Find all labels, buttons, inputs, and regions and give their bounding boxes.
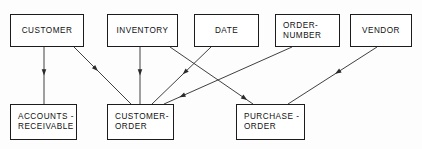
node-label-order-number: ORDER- NUMBER [276, 21, 321, 41]
arrowhead-icon [138, 69, 143, 75]
arrowhead-icon [241, 95, 247, 100]
edge-line [74, 47, 131, 104]
arrowhead-icon [179, 93, 186, 98]
edge-line [288, 47, 377, 104]
edge-customer-to-customer-order [74, 47, 131, 104]
node-label-customer: CUSTOMER [22, 26, 73, 36]
node-customer[interactable]: CUSTOMER [10, 14, 84, 47]
node-customer-order[interactable]: CUSTOMER- ORDER [107, 104, 174, 140]
node-label-inventory: INVENTORY [117, 26, 169, 36]
node-label-vendor: VENDOR [362, 26, 400, 36]
node-inventory[interactable]: INVENTORY [107, 14, 178, 47]
node-label-purchase-order: PURCHASE - ORDER [237, 112, 300, 132]
edge-vendor-to-purchase-order [288, 47, 377, 104]
diagram-canvas: CUSTOMERINVENTORYDATEORDER- NUMBERVENDOR… [0, 0, 422, 149]
node-accounts-receivable[interactable]: ACCOUNTS - RECEIVABLE [10, 104, 77, 140]
edge-customer-to-accounts-receivable [42, 47, 47, 104]
arrowhead-icon [335, 69, 341, 74]
node-order-number[interactable]: ORDER- NUMBER [275, 14, 340, 47]
node-label-date: DATE [215, 26, 238, 36]
node-purchase-order[interactable]: PURCHASE - ORDER [236, 104, 305, 140]
node-date[interactable]: DATE [194, 14, 259, 47]
node-vendor[interactable]: VENDOR [350, 14, 412, 47]
node-label-customer-order: CUSTOMER- ORDER [108, 112, 169, 132]
node-label-accounts-receivable: ACCOUNTS - RECEIVABLE [11, 112, 74, 132]
arrowhead-icon [42, 69, 47, 75]
edge-inventory-to-customer-order [138, 47, 143, 104]
